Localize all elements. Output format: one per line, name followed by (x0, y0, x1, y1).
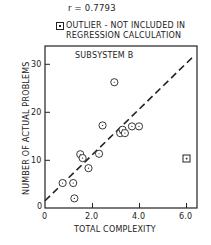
outlier-point (183, 155, 190, 162)
y-tick-10: 10 (31, 156, 42, 165)
x-ticks (93, 203, 187, 208)
x-tick-0: 0 (42, 212, 47, 221)
x-tick-4: 4.0 (132, 212, 145, 221)
x-tick-2: 2.0 (85, 212, 98, 221)
y-tick-0: 0 (37, 202, 42, 211)
y-axis-label: NUMBER OF ACTUAL PROBLEMS (22, 61, 31, 195)
chart-title: SUBSYSTEM B (75, 51, 133, 60)
data-points (59, 79, 143, 202)
y-ticks (45, 64, 50, 160)
y-tick-20: 20 (31, 108, 42, 117)
x-axis-label: TOTAL COMPLEXITY (74, 225, 156, 234)
x-tick-6: 6.0 (179, 212, 192, 221)
scatter-plot (0, 0, 211, 245)
y-tick-30: 30 (31, 60, 42, 69)
